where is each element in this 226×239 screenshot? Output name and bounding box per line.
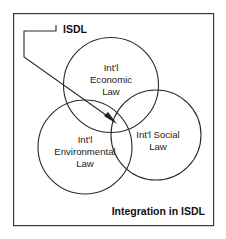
isdl-venn-diagram: ISDL Int'l Economic Law Int'l Environmen… bbox=[0, 0, 226, 239]
venn-diagram-canvas: ISDL Int'l Economic Law Int'l Environmen… bbox=[0, 0, 226, 239]
social-law-line-1: Int'l Social bbox=[136, 129, 179, 140]
environmental-law-line-1: Int'l bbox=[78, 134, 93, 145]
isdl-title-label: ISDL bbox=[63, 23, 88, 35]
social-law-line-2: Law bbox=[149, 141, 167, 152]
environmental-law-line-3: Law bbox=[76, 158, 94, 169]
environmental-law-line-2: Environmental bbox=[54, 146, 115, 157]
economic-law-line-3: Law bbox=[102, 86, 120, 97]
economic-law-line-2: Economic bbox=[90, 74, 132, 85]
economic-law-line-1: Int'l bbox=[104, 62, 119, 73]
diagram-caption: Integration in ISDL bbox=[112, 205, 206, 217]
